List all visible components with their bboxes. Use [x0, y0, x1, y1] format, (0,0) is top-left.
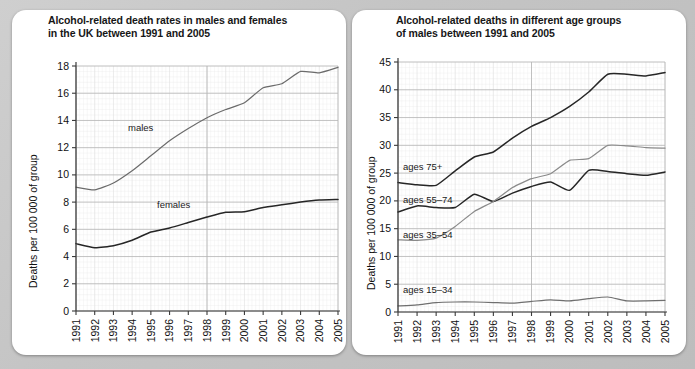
x-tick-label: 1998 — [201, 319, 213, 343]
x-tick-label: 1995 — [145, 319, 157, 343]
x-tick-label: 2004 — [640, 320, 652, 344]
x-tick-label: 1997 — [182, 319, 194, 343]
x-tick-label: 2002 — [276, 319, 288, 343]
x-tick-label: 2005 — [659, 320, 671, 344]
x-tick-label: 1998 — [525, 320, 537, 344]
y-tick-label: 35 — [379, 111, 391, 123]
x-tick-label: 2000 — [563, 320, 575, 344]
x-tick-label: 1996 — [163, 319, 175, 343]
y-tick-label: 30 — [379, 139, 391, 151]
series-label-ages-35-54: ages 35–54 — [403, 229, 453, 240]
y-tick-label: 16 — [57, 87, 69, 99]
x-tick-label: 1993 — [107, 319, 119, 343]
y-tick-label: 20 — [379, 194, 391, 206]
y-tick-label: 2 — [63, 277, 69, 289]
y-tick-label: 45 — [379, 56, 391, 68]
x-tick-label: 2002 — [602, 320, 614, 344]
page-background: Alcohol-related death rates in males and… — [0, 0, 695, 369]
x-tick-label: 2005 — [332, 319, 344, 343]
y-tick-label: 25 — [379, 167, 391, 179]
x-tick-label: 1992 — [89, 319, 101, 343]
y-tick-label: 15 — [379, 222, 391, 234]
y-tick-label: 14 — [57, 114, 69, 126]
series-label-females: females — [157, 199, 191, 210]
y-tick-label: 8 — [63, 196, 69, 208]
y-tick-label: 18 — [57, 60, 69, 72]
x-tick-label: 2004 — [313, 319, 325, 343]
x-tick-label: 1997 — [506, 320, 518, 344]
x-tick-label: 1992 — [411, 320, 423, 344]
x-tick-label: 1996 — [487, 320, 499, 344]
y-tick-label: 5 — [385, 278, 391, 290]
x-tick-label: 2001 — [257, 319, 269, 343]
x-tick-label: 1991 — [70, 319, 82, 343]
x-tick-label: 1991 — [392, 320, 404, 344]
left-chart-plot: 0246810121416181991199219931994199519961… — [0, 0, 346, 369]
series-label-males: males — [128, 122, 154, 133]
x-tick-label: 1999 — [220, 319, 232, 343]
y-tick-label: 4 — [63, 250, 69, 262]
x-tick-label: 1994 — [126, 319, 138, 343]
series-label-ages-15-34: ages 15–34 — [403, 284, 453, 295]
x-tick-label: 2003 — [621, 320, 633, 344]
x-tick-label: 2001 — [583, 320, 595, 344]
y-tick-label: 0 — [385, 306, 391, 318]
x-tick-label: 1999 — [544, 320, 556, 344]
x-tick-label: 2000 — [238, 319, 250, 343]
x-tick-label: 1994 — [449, 320, 461, 344]
y-tick-label: 10 — [57, 168, 69, 180]
y-tick-label: 0 — [63, 305, 69, 317]
y-tick-label: 12 — [57, 141, 69, 153]
x-tick-label: 2003 — [294, 319, 306, 343]
x-tick-label: 1995 — [468, 320, 480, 344]
y-tick-label: 6 — [63, 223, 69, 235]
right-chart-plot: 0510152025303540451991199219931994199519… — [346, 0, 695, 369]
series-label-ages-75-plus: ages 75+ — [403, 161, 443, 172]
y-tick-label: 40 — [379, 83, 391, 95]
y-tick-label: 10 — [379, 250, 391, 262]
x-tick-label: 1993 — [430, 320, 442, 344]
series-label-ages-55-74: ages 55–74 — [403, 194, 453, 205]
